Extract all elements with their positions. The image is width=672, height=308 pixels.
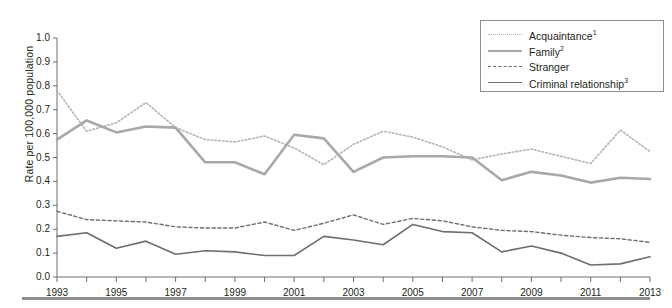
y-axis-tick-label: 0.8 (0, 81, 50, 91)
y-axis-tick-label: 0.5 (0, 153, 50, 163)
y-axis-tick-label: 0.7 (0, 105, 50, 115)
y-axis-tick-label: 0.9 (0, 57, 50, 67)
legend-footnote-marker: 2 (560, 45, 564, 52)
series-line-stranger (57, 211, 650, 242)
series-line-family (57, 120, 650, 182)
y-axis-tick-label: 1.0 (0, 33, 50, 43)
legend-item-label: Criminal relationship3 (529, 77, 628, 90)
legend-item[interactable]: Criminal relationship3 (488, 75, 656, 91)
legend-item[interactable]: Acquaintance1 (488, 27, 656, 43)
chart-legend: Acquaintance1Family2StrangerCriminal rel… (480, 20, 664, 92)
legend-item[interactable]: Family2 (488, 43, 656, 59)
legend-item-label: Family2 (529, 45, 564, 58)
series-line-criminal-relationship (57, 224, 650, 265)
legend-item-label: Acquaintance1 (529, 29, 597, 42)
bottom-divider (22, 297, 650, 300)
y-axis-tick-label: 0.3 (0, 200, 50, 210)
y-axis-tick-label: 0.1 (0, 248, 50, 258)
y-axis-tick-label: 0.0 (0, 272, 50, 282)
legend-item-label: Stranger (529, 61, 569, 73)
y-axis-tick-label: 0.6 (0, 129, 50, 139)
y-axis-tick-label: 0.2 (0, 224, 50, 234)
legend-footnote-marker: 1 (593, 29, 597, 36)
line-chart: Rate per 100,000 population 0.00.10.20.3… (0, 0, 672, 308)
legend-footnote-marker: 3 (624, 77, 628, 84)
y-axis-tick-label: 0.4 (0, 176, 50, 186)
legend-item[interactable]: Stranger (488, 59, 656, 75)
